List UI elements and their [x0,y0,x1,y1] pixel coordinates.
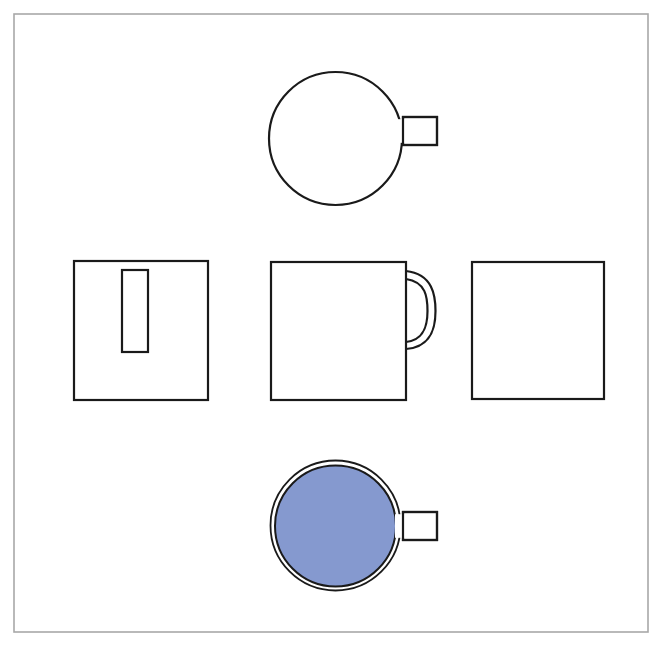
top-view-handle-join-mask [397,119,406,143]
front-view-body-rect [271,262,406,400]
drawing-sheet [0,0,669,648]
bottom-view-handle-join-mask [395,514,406,538]
bottom-view-handle-tab [403,512,437,540]
top-view-handle-tab [403,117,437,145]
bottom-view-base-circle [275,466,396,587]
orthographic-drawing-canvas [0,0,669,648]
